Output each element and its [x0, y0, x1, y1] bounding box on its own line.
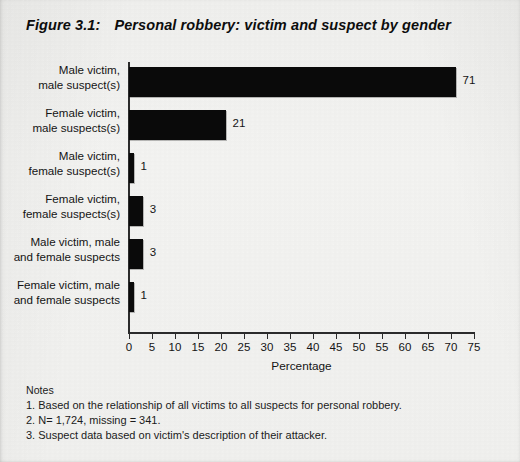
bar-value-label: 1	[141, 160, 147, 172]
x-axis-tick-label: 0	[126, 341, 132, 353]
plot-area: Percentage Male victim, male suspect(s)7…	[129, 62, 474, 332]
x-axis-tick	[198, 333, 199, 339]
bar-category-label: Female victim, male and female suspects	[0, 278, 120, 307]
x-axis-tick-label: 50	[353, 341, 366, 353]
bar	[129, 196, 143, 226]
x-axis-tick-label: 70	[445, 341, 458, 353]
bar	[129, 67, 456, 97]
notes-block: Notes 1. Based on the relationship of al…	[26, 384, 402, 443]
bar-value-label: 3	[150, 246, 156, 258]
x-axis-tick-label: 40	[307, 341, 320, 353]
bar-category-label: Female victim, female suspects(s)	[0, 192, 120, 221]
bar-value-label: 71	[463, 74, 476, 86]
bar-category-label: Female victim, male suspects(s)	[0, 106, 120, 135]
x-axis-tick	[451, 333, 452, 339]
x-axis-tick-label: 65	[422, 341, 435, 353]
x-axis-tick	[129, 333, 130, 339]
x-axis-tick	[290, 333, 291, 339]
note-item: 2. N= 1,724, missing = 341.	[26, 413, 402, 428]
figure-title-text: Personal robbery: victim and suspect by …	[114, 17, 451, 33]
x-axis-tick	[359, 333, 360, 339]
x-axis-tick-label: 15	[192, 341, 205, 353]
scanned-figure-page: Figure 3.1:Personal robbery: victim and …	[0, 0, 520, 462]
bar-category-label: Male victim, male and female suspects	[0, 235, 120, 264]
bar-row: Female victim, male suspects(s)21	[129, 105, 474, 148]
bar-row: Female victim, female suspects(s)3	[129, 191, 474, 234]
note-item: 1. Based on the relationship of all vict…	[26, 398, 402, 413]
x-axis-tick-label: 10	[169, 341, 182, 353]
x-axis-tick-label: 60	[399, 341, 412, 353]
bar-category-label: Male victim, female suspect(s)	[0, 149, 120, 178]
x-axis-tick-label: 55	[376, 341, 389, 353]
bar-value-label: 3	[150, 203, 156, 215]
figure-number: Figure 3.1:	[26, 17, 100, 33]
x-axis-tick	[405, 333, 406, 339]
x-axis-tick-label: 75	[468, 341, 481, 353]
bar-row: Female victim, male and female suspects1	[129, 277, 474, 320]
note-item: 3. Suspect data based on victim's descri…	[26, 428, 402, 443]
x-axis-tick	[428, 333, 429, 339]
x-axis-tick	[175, 333, 176, 339]
x-axis-tick	[244, 333, 245, 339]
x-axis-tick	[221, 333, 222, 339]
bar-row: Male victim, male suspect(s)71	[129, 62, 474, 105]
bar-value-label: 1	[141, 289, 147, 301]
x-axis-tick	[152, 333, 153, 339]
bar-value-label: 21	[233, 117, 246, 129]
bar-row: Male victim, female suspect(s)1	[129, 148, 474, 191]
x-axis-tick-label: 25	[238, 341, 251, 353]
bar	[129, 282, 134, 312]
x-axis-tick-label: 35	[284, 341, 297, 353]
x-axis-tick-label: 45	[330, 341, 343, 353]
x-axis-tick	[267, 333, 268, 339]
x-axis-tick	[474, 333, 475, 339]
bar	[129, 110, 226, 140]
bar	[129, 153, 134, 183]
x-axis-tick-label: 5	[149, 341, 155, 353]
x-axis-tick-label: 30	[261, 341, 274, 353]
x-axis-tick	[313, 333, 314, 339]
figure-title: Figure 3.1:Personal robbery: victim and …	[26, 17, 451, 33]
x-axis-title: Percentage	[129, 359, 474, 373]
bar-category-label: Male victim, male suspect(s)	[0, 63, 120, 92]
notes-heading: Notes	[26, 384, 402, 396]
x-axis-line	[128, 332, 475, 334]
bar-row: Male victim, male and female suspects3	[129, 234, 474, 277]
bar	[129, 239, 143, 269]
x-axis-tick	[382, 333, 383, 339]
x-axis-tick	[336, 333, 337, 339]
x-axis-tick-label: 20	[215, 341, 228, 353]
